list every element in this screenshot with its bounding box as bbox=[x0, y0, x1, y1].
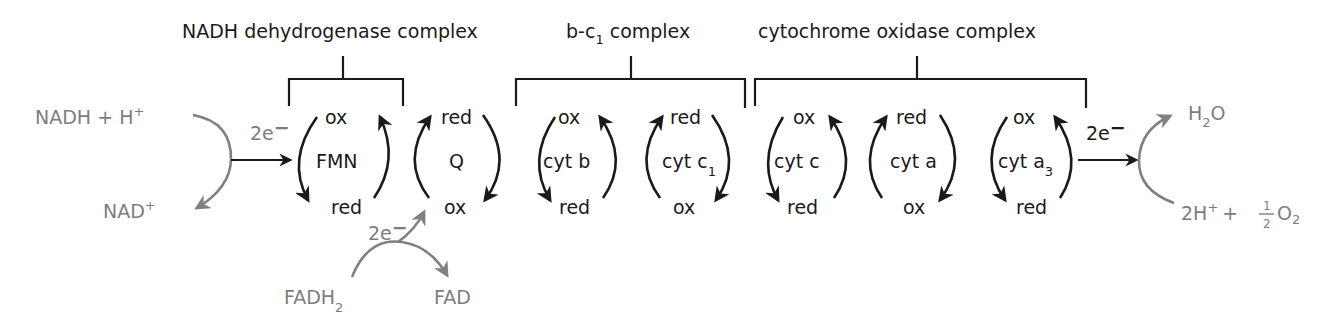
nadh-oxidation-arrow bbox=[193, 115, 231, 208]
water-label: H2O bbox=[1188, 102, 1226, 130]
carrier-cyt-a3: ox cyt a3 red bbox=[991, 106, 1071, 218]
electrons-label-nadh: 2e− bbox=[250, 116, 290, 144]
cyt-c1-name: cyt c1 bbox=[662, 150, 716, 179]
fad-label: FAD bbox=[434, 286, 471, 308]
cyt-a3-name: cyt a3 bbox=[998, 150, 1053, 179]
bracket-nadh-dehydrogenase bbox=[289, 56, 403, 106]
carrier-cyt-a: red cyt a ox bbox=[870, 106, 955, 218]
carrier-cyt-c: ox cyt c red bbox=[768, 106, 846, 218]
complex-label-cytochrome-oxidase: cytochrome oxidase complex bbox=[758, 20, 1036, 42]
oxygen-reactant-label: 2H++ 1 2 O2 bbox=[1181, 199, 1300, 231]
cyt-a3-top-state: ox bbox=[1013, 106, 1035, 128]
fmn-top-state: ox bbox=[325, 106, 347, 128]
complex-label-nadh-dehydrogenase: NADH dehydrogenase complex bbox=[182, 20, 478, 42]
svg-text:O2: O2 bbox=[1277, 202, 1300, 227]
carrier-fmn: ox FMN red bbox=[299, 106, 389, 218]
fmn-bottom-state: red bbox=[331, 196, 362, 218]
cyt-c1-bottom-state: ox bbox=[673, 196, 695, 218]
cyt-c-bottom-state: red bbox=[787, 196, 818, 218]
carrier-cyt-c1: red cyt c1 ox bbox=[646, 106, 729, 218]
carrier-cyt-b: ox cyt b red bbox=[539, 106, 616, 218]
fadh2-label: FADH2 bbox=[284, 286, 343, 315]
cyt-c-top-state: ox bbox=[793, 106, 815, 128]
cyt-c1-top-state: red bbox=[670, 106, 701, 128]
cyt-b-bottom-state: red bbox=[559, 196, 590, 218]
carrier-q: red Q ox bbox=[415, 106, 500, 218]
cyt-b-name: cyt b bbox=[543, 150, 590, 172]
cyt-a-top-state: red bbox=[896, 106, 927, 128]
svg-text:2: 2 bbox=[1263, 217, 1271, 231]
cyt-a-bottom-state: ox bbox=[903, 196, 925, 218]
cyt-c-name: cyt c bbox=[774, 150, 820, 172]
complex-label-bc1: b-c1 complex bbox=[566, 20, 690, 47]
q-bottom-state: ox bbox=[444, 196, 466, 218]
bracket-cytochrome-oxidase bbox=[755, 56, 1086, 108]
cyt-a3-bottom-state: red bbox=[1016, 196, 1047, 218]
bracket-bc1 bbox=[516, 56, 745, 108]
svg-text:2H++: 2H++ bbox=[1181, 200, 1238, 224]
fmn-name: FMN bbox=[316, 150, 358, 172]
q-name: Q bbox=[449, 150, 464, 172]
nad-label: NAD+ bbox=[103, 198, 156, 222]
cyt-b-top-state: ox bbox=[558, 106, 580, 128]
fadh2-oxidation-arrow bbox=[352, 241, 447, 277]
electron-transport-diagram: NADH dehydrogenase complex b-c1 complex … bbox=[0, 0, 1338, 334]
q-top-state: red bbox=[441, 106, 472, 128]
nadh-label: NADH + H+ bbox=[35, 104, 144, 128]
cyt-a-name: cyt a bbox=[890, 150, 937, 172]
electrons-label-output: 2e− bbox=[1086, 116, 1126, 144]
oxygen-reduction-arrow bbox=[1139, 116, 1174, 203]
svg-text:1: 1 bbox=[1263, 199, 1271, 213]
